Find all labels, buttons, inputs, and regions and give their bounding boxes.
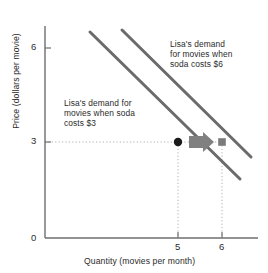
equilibrium-point-soda-6 [218, 138, 226, 146]
x-axis-title: Quantity (movies per month) [84, 256, 195, 266]
y-axis-title: Price (dollars per movie) [11, 21, 21, 141]
y-tick-label-3: 3 [31, 135, 36, 146]
demand-shift-chart: Lisa's demand for movies when soda costs… [0, 0, 268, 273]
right-demand-annotation: Lisa's demand for movies when soda costs… [170, 39, 262, 70]
x-tick-label-6: 6 [219, 241, 224, 252]
equilibrium-point-soda-3 [174, 138, 182, 146]
left-demand-annotation: Lisa's demand for movies when soda costs… [64, 98, 160, 129]
y-tick-label-6: 6 [31, 41, 36, 52]
x-tick-label-5: 5 [175, 241, 180, 252]
origin-label: 0 [31, 232, 36, 243]
